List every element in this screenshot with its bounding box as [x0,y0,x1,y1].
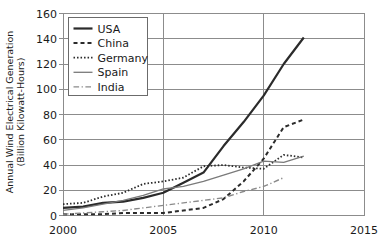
y-axis-tick-labels: 020406080100120140160 [36,8,63,223]
y-tick-label: 20 [43,184,57,197]
wind-generation-line-chart: 020406080100120140160 2000200520102015 A… [0,0,383,247]
chart-legend[interactable]: USAChinaGermanySpainIndia [69,18,149,96]
y-tick-label: 120 [36,58,57,71]
x-axis-tick-labels: 2000200520102015 [49,224,378,237]
y-tick-label: 100 [36,83,57,96]
chart-canvas: 020406080100120140160 2000200520102015 A… [0,0,383,247]
y-axis-title: Annual Wind Electrical Generation (Billi… [4,31,26,194]
legend-label: Spain [98,66,129,79]
y-tick-label: 60 [43,134,57,147]
y-tick-label: 80 [43,109,57,122]
x-tick-label: 2010 [250,224,278,237]
y-axis-title-line2: (Billion Kilowatt-Hours) [15,58,26,167]
y-axis-title-line1: Annual Wind Electrical Generation [4,31,15,194]
y-tick-label: 40 [43,159,57,172]
legend-label: USA [98,23,121,36]
x-tick-label: 2000 [49,224,77,237]
y-tick-label: 0 [50,210,57,223]
series-line-india [63,178,284,215]
x-tick-label: 2005 [149,224,177,237]
y-tick-label: 140 [36,33,57,46]
series-line-germany [63,155,304,204]
legend-label: Germany [98,52,149,65]
x-tick-label: 2015 [350,224,378,237]
y-tick-label: 160 [36,8,57,21]
legend-label: China [98,37,129,50]
legend-label: India [98,81,125,94]
